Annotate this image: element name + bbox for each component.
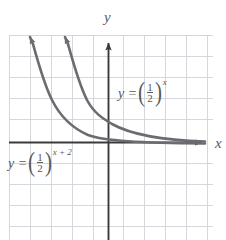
right-paren-icon: ) xyxy=(155,79,162,106)
equation-label-1-lead: y = xyxy=(118,87,137,101)
fraction-one-half: 12 xyxy=(146,82,154,104)
left-paren-icon: ( xyxy=(138,79,145,106)
y-axis-label: y xyxy=(104,10,111,25)
left-paren-icon: ( xyxy=(28,149,35,176)
equation-label-2-lead: y = xyxy=(8,157,27,171)
fraction-one-half: 12 xyxy=(36,152,44,174)
fraction-denominator: 2 xyxy=(146,93,154,104)
exponential-function-graph: y x y =(12)x y =(12)x + 2 xyxy=(0,0,226,240)
equation-label-1: y =(12)x xyxy=(118,80,167,107)
fraction-denominator: 2 xyxy=(36,163,44,174)
canvas-background xyxy=(0,0,226,240)
right-paren-icon: ) xyxy=(45,149,52,176)
x-axis-label: x xyxy=(215,136,222,151)
exponent-1: x xyxy=(163,78,167,87)
graph-canvas xyxy=(0,0,226,240)
fraction-numerator: 1 xyxy=(146,82,154,92)
exponent-2: x + 2 xyxy=(53,148,72,157)
fraction-numerator: 1 xyxy=(36,152,44,162)
equation-label-2: y =(12)x + 2 xyxy=(8,150,72,177)
